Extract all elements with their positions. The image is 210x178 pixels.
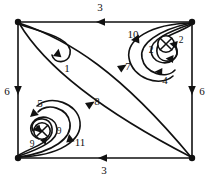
label-diagonal-8: 8 <box>94 95 100 107</box>
label-spiral-left-11: 11 <box>75 136 86 148</box>
phase-portrait-svg: 3 3 6 6 7 8 1 10 2 2 4 5 9 9 11 <box>0 0 210 178</box>
label-edge-left: 6 <box>4 85 10 97</box>
label-edge-right: 6 <box>199 85 205 97</box>
label-spiral-left-9a: 9 <box>30 139 35 149</box>
vertex-bottom-right <box>189 155 195 161</box>
vertex-top-left <box>15 19 21 25</box>
figure-canvas: 3 3 6 6 7 8 1 10 2 2 4 5 9 9 11 <box>0 0 210 178</box>
label-edge-bottom: 3 <box>101 164 107 176</box>
label-diagonal-7: 7 <box>125 60 131 72</box>
label-spiral-left-9b: 9 <box>57 126 62 136</box>
label-loop-1: 1 <box>64 62 70 74</box>
vertex-top-right <box>189 19 195 25</box>
vertex-bottom-left <box>15 155 21 161</box>
label-spiral-right-2b: 2 <box>179 35 184 45</box>
label-spiral-right-10: 10 <box>128 28 140 40</box>
label-edge-top: 3 <box>97 1 103 13</box>
label-spiral-right-2a: 2 <box>149 45 154 55</box>
label-spiral-left-5: 5 <box>37 97 43 109</box>
label-spiral-right-4: 4 <box>162 74 168 86</box>
